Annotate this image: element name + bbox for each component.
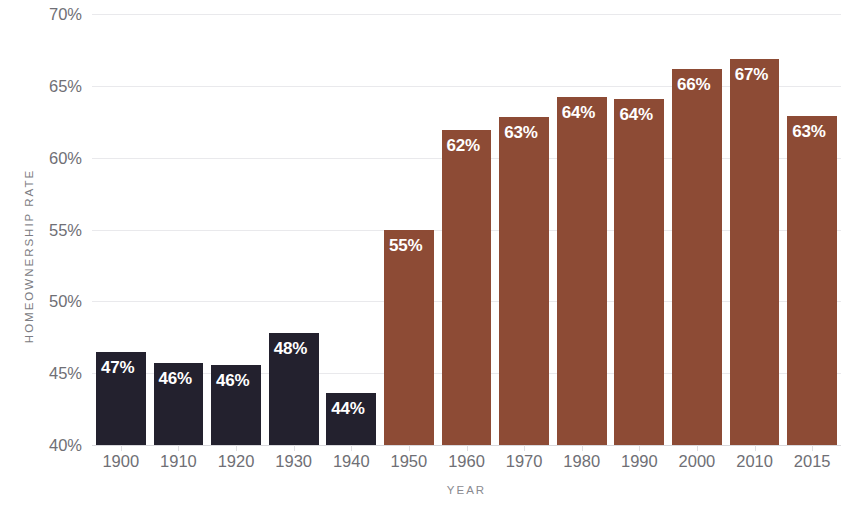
x-tickmark — [755, 445, 756, 451]
bar[interactable]: 46% — [154, 363, 204, 445]
bar-value-label: 62% — [447, 135, 480, 156]
x-tickmark — [121, 445, 122, 451]
bar-value-label: 44% — [331, 398, 364, 419]
x-tickmark — [812, 445, 813, 451]
x-tickmark — [178, 445, 179, 451]
x-tick-label: 1930 — [265, 452, 323, 472]
x-tick-label: 1900 — [92, 452, 150, 472]
homeownership-rate-bar-chart: HOMEOWNERSHIP RATE 40%45%50%55%60%65%70%… — [0, 0, 849, 515]
bar[interactable]: 47% — [96, 352, 146, 445]
bar-value-label: 48% — [274, 338, 307, 359]
bar[interactable]: 62% — [442, 130, 492, 445]
x-tick-label: 1940 — [322, 452, 380, 472]
bar[interactable]: 55% — [384, 230, 434, 446]
bar-value-label: 46% — [159, 368, 192, 389]
x-tickmark — [467, 445, 468, 451]
x-tick-label: 2015 — [783, 452, 841, 472]
x-tick-label: 1920 — [207, 452, 265, 472]
x-tick-label: 1960 — [438, 452, 496, 472]
y-tick-label: 60% — [26, 150, 82, 167]
y-tick-label: 45% — [26, 365, 82, 382]
x-axis-tick-labels: 1900191019201930194019501960197019801990… — [92, 452, 841, 476]
bar-value-label: 63% — [792, 121, 825, 142]
y-tick-label: 50% — [26, 293, 82, 310]
x-tick-label: 1980 — [553, 452, 611, 472]
bar[interactable]: 64% — [614, 99, 664, 445]
bar-value-label: 46% — [216, 370, 249, 391]
x-tickmark — [582, 445, 583, 451]
bar[interactable]: 46% — [211, 365, 261, 445]
x-tick-label: 1950 — [380, 452, 438, 472]
bar-value-label: 63% — [504, 122, 537, 143]
bar-value-label: 64% — [562, 102, 595, 123]
bars-layer: 47%46%46%48%44%55%62%63%64%64%66%67%63% — [92, 14, 841, 445]
bar[interactable]: 48% — [269, 333, 319, 445]
plot-area: 47%46%46%48%44%55%62%63%64%64%66%67%63% — [92, 14, 841, 445]
y-tick-label: 65% — [26, 78, 82, 95]
x-tickmark — [294, 445, 295, 451]
bar-value-label: 55% — [389, 235, 422, 256]
bar[interactable]: 63% — [787, 116, 837, 445]
bar[interactable]: 64% — [557, 97, 607, 445]
x-tick-label: 1970 — [495, 452, 553, 472]
x-tickmark — [639, 445, 640, 451]
x-axis-title: YEAR — [92, 484, 841, 496]
bar-value-label: 66% — [677, 74, 710, 95]
x-tick-label: 1910 — [150, 452, 208, 472]
bar-value-label: 47% — [101, 357, 134, 378]
x-tickmark — [524, 445, 525, 451]
y-tick-label: 55% — [26, 222, 82, 239]
bar-value-label: 67% — [735, 64, 768, 85]
bar[interactable]: 66% — [672, 69, 722, 445]
y-axis-tick-labels: 40%45%50%55%60%65%70% — [26, 0, 82, 515]
bar[interactable]: 44% — [326, 393, 376, 445]
y-tick-label: 40% — [26, 437, 82, 454]
x-tick-label: 2000 — [668, 452, 726, 472]
x-tick-label: 1990 — [611, 452, 669, 472]
bar[interactable]: 63% — [499, 117, 549, 445]
x-tick-label: 2010 — [726, 452, 784, 472]
x-tickmark — [351, 445, 352, 451]
bar[interactable]: 67% — [730, 59, 780, 445]
x-tickmark — [697, 445, 698, 451]
x-tickmark — [236, 445, 237, 451]
y-tick-label: 70% — [26, 6, 82, 23]
bar-value-label: 64% — [619, 104, 652, 125]
x-tickmark — [409, 445, 410, 451]
